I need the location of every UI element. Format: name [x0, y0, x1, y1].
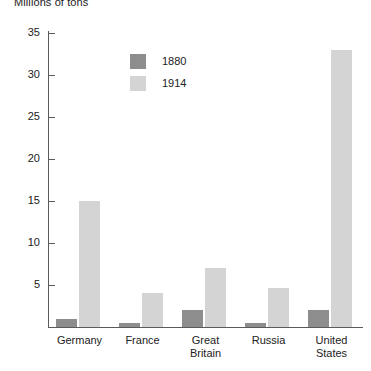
legend-item-1914: 1914 [130, 72, 186, 94]
bar-1880-germany [56, 319, 77, 327]
x-axis-label-line: Britain [174, 347, 237, 360]
bar-group [182, 33, 226, 327]
y-tick-label-5: 5 [14, 278, 40, 290]
y-tick-label-10: 10 [14, 236, 40, 248]
x-axis-label-line: States [300, 347, 363, 360]
bar-group [56, 33, 100, 327]
y-tick-label-35: 35 [14, 26, 40, 38]
y-tick-label-20: 20 [14, 152, 40, 164]
bar-1914-germany [79, 201, 100, 327]
x-axis-label-germany: Germany [48, 334, 111, 347]
y-tick-label-25: 25 [14, 110, 40, 122]
bar-1880-france [119, 323, 140, 327]
bar-group [245, 33, 289, 327]
legend-label-1914: 1914 [162, 77, 186, 89]
bar-1880-russia [245, 323, 266, 327]
x-axis-label-line: Great [174, 334, 237, 347]
legend-swatch-1914 [130, 76, 146, 91]
legend-label-1880: 1880 [162, 55, 186, 67]
x-axis-label-line: Germany [48, 334, 111, 347]
bar-1914-great-britain [205, 268, 226, 327]
bar-1914-russia [268, 288, 289, 327]
bar-group [308, 33, 352, 327]
y-tick-label-30: 30 [14, 68, 40, 80]
x-axis-line [48, 327, 363, 328]
bar-1914-france [142, 293, 163, 327]
x-axis-label-france: France [111, 334, 174, 347]
x-axis-label-line: Russia [237, 334, 300, 347]
bar-1914-united-states [331, 50, 352, 327]
x-axis-label-russia: Russia [237, 334, 300, 347]
chart-title: Millions of tons [14, 0, 88, 8]
x-axis-label-united-states: UnitedStates [300, 334, 363, 360]
bar-1880-great-britain [182, 310, 203, 327]
bar-1880-united-states [308, 310, 329, 327]
x-axis-label-line: United [300, 334, 363, 347]
plot-area [48, 33, 363, 327]
legend: 18801914 [130, 50, 186, 94]
x-axis-label-great-britain: GreatBritain [174, 334, 237, 360]
legend-item-1880: 1880 [130, 50, 186, 72]
x-axis-label-line: France [111, 334, 174, 347]
bar-chart: Millions of tons 3530252015105 GermanyFr… [0, 0, 371, 371]
legend-swatch-1880 [130, 54, 146, 69]
y-tick-label-15: 15 [14, 194, 40, 206]
